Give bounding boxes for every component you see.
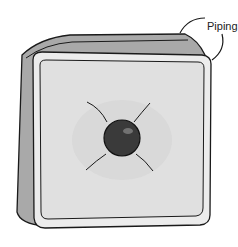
tuft-button [104, 120, 140, 156]
cushion-illustration [0, 0, 238, 247]
piping-label: Piping [207, 20, 238, 32]
